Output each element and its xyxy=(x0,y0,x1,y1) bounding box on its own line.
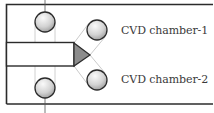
chamber-1-label: CVD chamber-1 xyxy=(121,24,208,37)
transfer-corridor xyxy=(7,43,75,67)
chamber-2-guide-a xyxy=(74,66,89,86)
chamber-1-guide-a xyxy=(74,23,89,43)
diagram-canvas xyxy=(0,0,214,113)
chamber-1-circle xyxy=(87,20,107,40)
chamber-2-circle xyxy=(87,70,107,90)
top-port-circle xyxy=(35,12,55,32)
bottom-port-circle xyxy=(35,78,55,98)
chamber-2-label: CVD chamber-2 xyxy=(121,73,208,86)
transfer-robot-triangle xyxy=(74,43,90,66)
